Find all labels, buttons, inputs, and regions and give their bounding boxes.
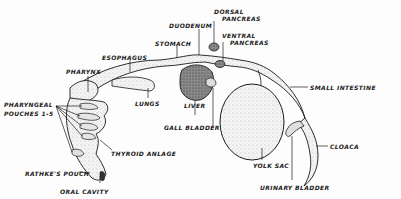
label-duodenum: DUODENUM [169,22,212,29]
label-urinary-bladder: URINARY BLADDER [260,184,330,191]
label-oral-cavity: ORAL CAVITY [60,188,109,195]
label-ventral-pancreas: VENTRAL PANCREAS [222,32,269,46]
diagram-canvas: DORSAL PANCREAS VENTRAL PANCREAS DUODENU… [0,0,401,199]
label-stomach: STOMACH [155,40,191,47]
label-cloaca: CLOACA [330,143,359,150]
cloaca-shape [298,118,318,186]
label-esophagus: ESOPHAGUS [102,54,147,61]
label-ventral-pancreas-line1: VENTRAL [222,32,269,39]
label-small-intestine: SMALL INTESTINE [310,84,376,91]
dorsal-pancreas-shape [209,43,219,51]
label-thyroid-anlage: THYROID ANLAGE [111,150,176,157]
label-dorsal-pancreas: DORSAL PANCREAS [214,8,261,22]
label-ventral-pancreas-line2: PANCREAS [222,39,269,46]
label-dorsal-pancreas-line1: DORSAL [214,8,261,15]
label-gall-bladder: GALL BLADDER [164,124,220,131]
label-rathkes-pouch: RATHKE'S POUCH [25,170,89,177]
label-yolk-sac: YOLK SAC [253,162,289,169]
yolk-sac-shape [220,84,284,160]
ventral-pancreas-shape [215,61,225,68]
label-pharyngeal-pouches-line1: PHARYNGEAL [4,101,54,108]
label-pharyngeal-pouches-line2: POUCHES 1-5 [4,110,54,117]
label-pharynx: PHARYNX [66,68,101,75]
label-dorsal-pancreas-line2: PANCREAS [214,15,261,22]
label-liver: LIVER [184,102,205,109]
label-pharyngeal-pouches: PHARYNGEAL POUCHES 1-5 [4,101,54,117]
label-lungs: LUNGS [135,100,160,107]
